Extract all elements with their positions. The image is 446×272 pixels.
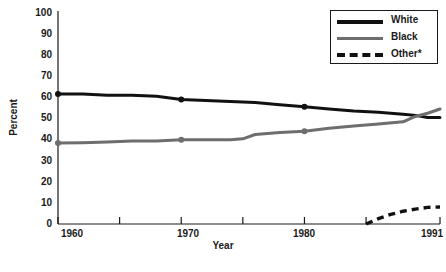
data-series-layer [55,91,440,224]
data-point-marker [55,140,61,146]
legend-label-black: Black [391,31,418,42]
data-point-marker [55,91,61,97]
data-point-marker [178,96,184,102]
series-line-black [58,109,440,143]
legend-label-other: Other* [391,48,422,59]
series-line-other [366,207,440,224]
legend-entry-white: White [331,12,439,30]
legend-swatch-black [337,37,383,40]
chart-figure: Percent Year 100 90 80 70 60 50 40 30 20… [0,0,446,272]
legend: White Black Other* [330,10,438,64]
series-line-white [58,94,440,117]
legend-swatch-white [337,20,383,24]
legend-entry-other: Other* [331,46,439,64]
legend-label-white: White [391,14,418,25]
legend-entry-black: Black [331,29,439,47]
data-point-marker [178,137,184,143]
data-point-marker [301,128,307,134]
data-point-marker [301,104,307,110]
legend-swatch-other [337,53,383,57]
